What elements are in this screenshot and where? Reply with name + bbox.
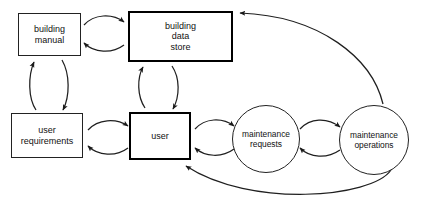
node-maintenance-operations-label: maintenance operations [350, 130, 398, 150]
node-user[interactable]: user [129, 112, 191, 160]
edge-manual-to-store [84, 16, 124, 25]
edge-operations-to-requests [300, 148, 340, 156]
edge-operations-to-store-long [240, 13, 383, 104]
edge-manual-to-requirements [62, 60, 68, 110]
node-maintenance-operations[interactable]: maintenance operations [339, 105, 409, 175]
node-building-manual-label: building manual [34, 24, 65, 45]
edge-requests-to-user [195, 148, 234, 155]
edge-requests-to-operations [300, 120, 340, 129]
edge-user-to-requirements [88, 146, 128, 154]
node-user-label: user [151, 131, 169, 142]
node-maintenance-requests[interactable]: maintenance requests [232, 105, 300, 173]
edge-user-to-requests [195, 120, 234, 129]
node-building-data-store-label: building data store [165, 21, 196, 53]
node-building-data-store[interactable]: building data store [128, 11, 233, 62]
node-building-manual[interactable]: building manual [18, 13, 81, 56]
node-user-requirements-label: user requirements [21, 125, 74, 146]
edge-store-to-user [172, 66, 178, 109]
node-maintenance-requests-label: maintenance requests [242, 129, 290, 149]
edge-requirements-to-user [88, 121, 128, 130]
edge-user-to-store [139, 67, 145, 108]
node-user-requirements[interactable]: user requirements [11, 113, 83, 158]
edge-requirements-to-manual [30, 62, 36, 110]
edge-store-to-manual [84, 43, 124, 51]
diagram-canvas: building manual building data store user… [0, 0, 427, 219]
